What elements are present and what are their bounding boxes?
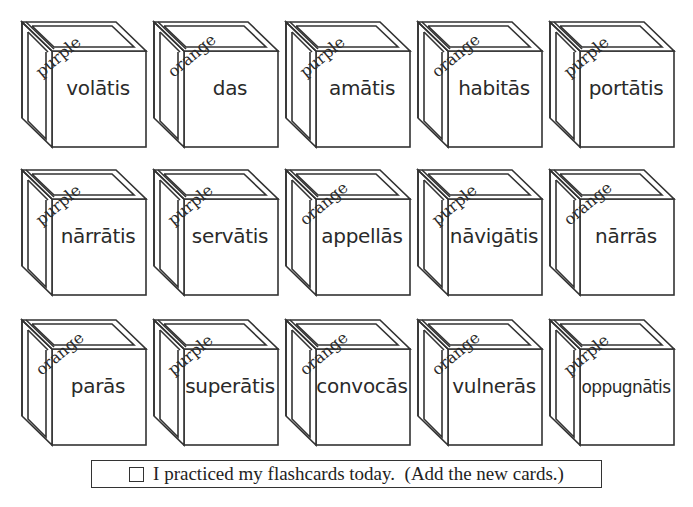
flashcard: purpleportātis <box>546 18 676 150</box>
card-word: nārrās <box>578 224 674 248</box>
card-word: convocās <box>314 374 410 398</box>
flashcard: orangeappellās <box>282 166 412 298</box>
card-word: portātis <box>578 76 674 100</box>
card-word: nāvigātis <box>446 224 542 248</box>
flashcard: orangevulnerās <box>414 316 544 448</box>
card-word: vulnerās <box>446 374 542 398</box>
card-word: servātis <box>182 224 278 248</box>
practice-checklist: I practiced my flashcards today. (Add th… <box>91 460 602 488</box>
flashcard: orangeparās <box>18 316 148 448</box>
flashcard: purplenāvigātis <box>414 166 544 298</box>
flashcard: purpleoppugnātis <box>546 316 676 448</box>
card-word: superātis <box>182 374 278 398</box>
practice-label: I practiced my flashcards today. (Add th… <box>153 463 564 485</box>
card-word: parās <box>50 374 146 398</box>
card-word: nārrātis <box>50 224 146 248</box>
flashcard: purplesuperātis <box>150 316 280 448</box>
card-word: volātis <box>50 76 146 100</box>
flashcard: purpleservātis <box>150 166 280 298</box>
flashcard: purplevolātis <box>18 18 148 150</box>
flashcard: purplenārrātis <box>18 166 148 298</box>
flashcard: purpleamātis <box>282 18 412 150</box>
flashcard: orangehabitās <box>414 18 544 150</box>
card-word: oppugnātis <box>578 377 674 397</box>
card-word: amātis <box>314 76 410 100</box>
flashcard: orangedas <box>150 18 280 150</box>
flashcard: orangeconvocās <box>282 316 412 448</box>
card-word: das <box>182 76 278 100</box>
card-word: habitās <box>446 76 542 100</box>
practice-checkbox[interactable] <box>129 467 144 482</box>
flashcard: orangenārrās <box>546 166 676 298</box>
card-word: appellās <box>314 224 410 248</box>
